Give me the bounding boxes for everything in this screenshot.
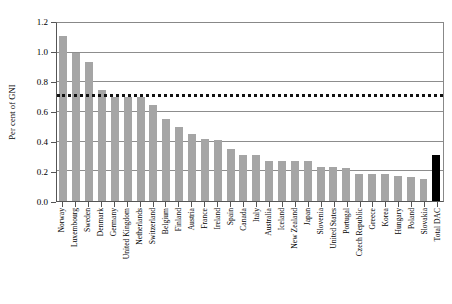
bar-slot bbox=[276, 23, 289, 201]
bar[interactable] bbox=[124, 97, 132, 201]
x-tick-label: Belgium bbox=[162, 208, 170, 234]
x-tick-slot bbox=[160, 202, 173, 207]
x-tick-label: Ireland bbox=[214, 208, 222, 230]
bar[interactable] bbox=[72, 53, 80, 201]
bar[interactable] bbox=[381, 174, 389, 201]
bar-slot bbox=[378, 23, 391, 201]
x-label-slot: Belgium bbox=[160, 208, 173, 302]
x-axis-ticks bbox=[56, 202, 444, 207]
x-tick-slot bbox=[121, 202, 134, 207]
x-tick-slot bbox=[237, 202, 250, 207]
x-label-slot: Switzerland bbox=[147, 208, 160, 302]
x-tick-slot bbox=[147, 202, 160, 207]
x-label-slot: Total DAC bbox=[431, 208, 444, 302]
x-tick-label: Sweden bbox=[85, 208, 93, 232]
x-tick-slot bbox=[379, 202, 392, 207]
x-tick-label: Italy bbox=[253, 208, 261, 222]
x-tick-label: France bbox=[201, 208, 209, 229]
x-label-slot: Slovenia bbox=[315, 208, 328, 302]
bar[interactable] bbox=[98, 90, 106, 201]
x-tick-label: Iceland bbox=[279, 208, 287, 230]
bar[interactable] bbox=[342, 168, 350, 201]
x-tick-label: Hungary bbox=[395, 208, 403, 235]
bar-slot bbox=[404, 23, 417, 201]
bar[interactable] bbox=[329, 167, 337, 201]
bar[interactable] bbox=[59, 36, 67, 201]
x-tick-slot bbox=[185, 202, 198, 207]
bar[interactable] bbox=[368, 174, 376, 201]
x-tick-label: Switzerland bbox=[149, 208, 157, 244]
bar[interactable] bbox=[188, 134, 196, 201]
x-tick-slot bbox=[172, 202, 185, 207]
bar[interactable] bbox=[317, 167, 325, 201]
bar-slot bbox=[186, 23, 199, 201]
x-label-slot: Portugal bbox=[341, 208, 354, 302]
bar-slot bbox=[96, 23, 109, 201]
bar[interactable] bbox=[162, 119, 170, 201]
x-tick-label: Germany bbox=[110, 208, 118, 236]
x-tick-mark bbox=[398, 202, 399, 207]
bar[interactable] bbox=[355, 174, 363, 201]
x-tick-slot bbox=[367, 202, 380, 207]
bar[interactable] bbox=[239, 155, 247, 201]
bar-series bbox=[57, 23, 443, 201]
bar[interactable] bbox=[201, 139, 209, 201]
bar[interactable] bbox=[214, 140, 222, 201]
x-tick-slot bbox=[341, 202, 354, 207]
y-tick-label: 0.0 bbox=[37, 198, 48, 207]
x-label-slot: Spain bbox=[224, 208, 237, 302]
x-tick-mark bbox=[295, 202, 296, 207]
x-tick-label: Total DAC bbox=[434, 208, 442, 241]
x-label-slot: Korea bbox=[379, 208, 392, 302]
bar[interactable] bbox=[394, 176, 402, 201]
bar[interactable] bbox=[304, 161, 312, 201]
bar[interactable] bbox=[407, 177, 415, 201]
bar[interactable] bbox=[227, 149, 235, 201]
bar-slot bbox=[250, 23, 263, 201]
x-tick-mark bbox=[321, 202, 322, 207]
bar-slot bbox=[314, 23, 327, 201]
x-tick-mark bbox=[385, 202, 386, 207]
bar[interactable] bbox=[137, 97, 145, 201]
bar[interactable] bbox=[420, 179, 428, 201]
bar-slot bbox=[430, 23, 443, 201]
x-tick-mark bbox=[424, 202, 425, 207]
bar[interactable] bbox=[149, 105, 157, 201]
x-tick-label: United Kingdom bbox=[123, 208, 131, 259]
bar[interactable] bbox=[252, 155, 260, 201]
x-tick-slot bbox=[418, 202, 431, 207]
x-label-slot: Italy bbox=[250, 208, 263, 302]
y-tick-label: 0.4 bbox=[37, 138, 48, 147]
bar[interactable] bbox=[85, 62, 93, 201]
x-tick-mark bbox=[308, 202, 309, 207]
x-tick-mark bbox=[204, 202, 205, 207]
x-tick-label: Netherlands bbox=[136, 208, 144, 245]
x-axis-labels: NorwayLuxembourgSwedenDenmarkGermanyUnit… bbox=[56, 208, 444, 302]
bar-slot bbox=[121, 23, 134, 201]
x-tick-mark bbox=[140, 202, 141, 207]
x-label-slot: Hungary bbox=[392, 208, 405, 302]
bar-slot bbox=[391, 23, 404, 201]
x-tick-mark bbox=[75, 202, 76, 207]
x-label-slot: Denmark bbox=[95, 208, 108, 302]
x-label-slot: United Kingdom bbox=[121, 208, 134, 302]
chart-figure: Per cent of GNI 0.00.20.40.60.81.01.2 No… bbox=[0, 0, 452, 304]
x-tick-slot bbox=[289, 202, 302, 207]
x-tick-mark bbox=[114, 202, 115, 207]
x-tick-label: Portugal bbox=[343, 208, 351, 234]
bar[interactable] bbox=[291, 161, 299, 201]
bar-slot bbox=[366, 23, 379, 201]
x-label-slot: Canada bbox=[237, 208, 250, 302]
bar[interactable] bbox=[111, 97, 119, 201]
bar-slot bbox=[340, 23, 353, 201]
bar[interactable] bbox=[175, 127, 183, 201]
x-tick-mark bbox=[372, 202, 373, 207]
x-tick-slot bbox=[431, 202, 444, 207]
y-tick-label: 0.2 bbox=[37, 168, 48, 177]
bar[interactable] bbox=[278, 161, 286, 201]
bar[interactable] bbox=[265, 161, 273, 201]
bar-slot bbox=[417, 23, 430, 201]
x-tick-slot bbox=[276, 202, 289, 207]
bar[interactable] bbox=[432, 155, 440, 201]
bar-slot bbox=[211, 23, 224, 201]
